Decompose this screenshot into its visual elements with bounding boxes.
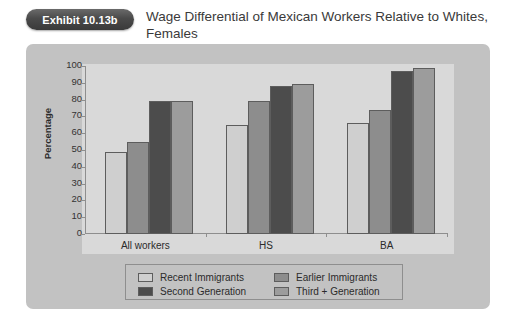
page-title: Wage Differential of Mexican Workers Rel…	[146, 8, 506, 42]
y-axis-tick-mark	[81, 234, 85, 235]
legend-swatch	[138, 287, 153, 296]
legend-label: Recent Immigrants	[160, 272, 244, 283]
chart-panel: 0102030405060708090100 Percentage All wo…	[26, 44, 490, 309]
bar	[149, 101, 171, 234]
y-axis-tick-label: 20	[71, 193, 82, 204]
legend-item: Recent Immigrants	[138, 270, 244, 284]
legend-item: Second Generation	[138, 284, 246, 298]
x-axis-tick-mark	[206, 233, 207, 237]
legend-label: Third + Generation	[296, 286, 380, 297]
y-axis-tick-label: 10	[71, 210, 82, 221]
bar	[105, 152, 127, 234]
y-axis-title: Percentage	[42, 94, 53, 174]
bar-group	[347, 66, 435, 234]
x-axis-tick-mark	[447, 233, 448, 237]
x-axis-tick-label: HS	[206, 240, 327, 251]
legend-label: Second Generation	[160, 286, 246, 297]
y-axis-tick-label: 70	[71, 109, 82, 120]
y-axis-tick-label: 40	[71, 160, 82, 171]
exhibit-number-badge: Exhibit 10.13b	[26, 9, 134, 30]
y-axis-tick-label: 0	[77, 227, 82, 238]
y-axis-tick-label: 30	[71, 177, 82, 188]
bar	[391, 71, 413, 234]
bars-layer	[85, 66, 447, 234]
y-axis-tick-label: 100	[66, 59, 82, 70]
bar	[171, 101, 193, 234]
legend-item: Third + Generation	[274, 284, 380, 298]
exhibit-screenshot: Exhibit 10.13b Wage Differential of Mexi…	[0, 0, 519, 323]
bar	[127, 142, 149, 234]
y-axis-tick-label: 50	[71, 143, 82, 154]
x-axis-tick-mark	[326, 233, 327, 237]
bar	[292, 84, 314, 234]
y-axis-tick-label: 60	[71, 126, 82, 137]
legend-item: Earlier Immigrants	[274, 270, 377, 284]
bar	[270, 86, 292, 234]
bar	[369, 110, 391, 234]
legend-label: Earlier Immigrants	[296, 272, 377, 283]
bar	[226, 125, 248, 234]
y-axis-tick-label: 80	[71, 93, 82, 104]
chart-legend: Recent ImmigrantsSecond GenerationEarlie…	[125, 264, 403, 300]
bar	[413, 68, 435, 234]
x-axis-tick-label: All workers	[85, 240, 206, 251]
bar	[248, 101, 270, 234]
bar-group	[105, 66, 193, 234]
legend-swatch	[138, 273, 153, 282]
bar	[347, 123, 369, 234]
legend-swatch	[274, 287, 289, 296]
x-axis-tick-label: BA	[326, 240, 447, 251]
y-axis-tick-label: 90	[71, 76, 82, 87]
legend-swatch	[274, 273, 289, 282]
exhibit-header: Exhibit 10.13b Wage Differential of Mexi…	[0, 0, 519, 48]
bar-group	[226, 66, 314, 234]
